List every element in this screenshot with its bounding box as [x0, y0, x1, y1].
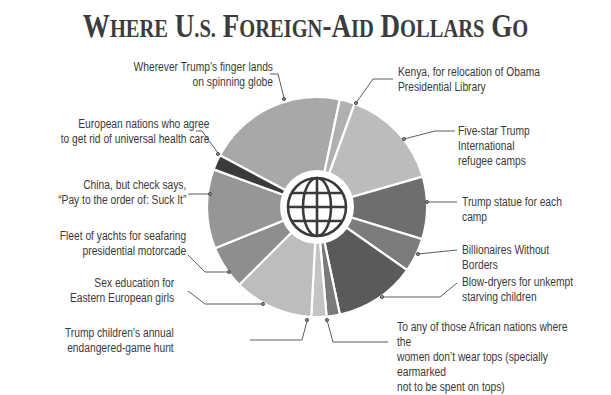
- label-trump-children: Trump children’s annual endangered-game …: [65, 326, 174, 356]
- label-sex-education: Sex education for Eastern European girls: [70, 276, 174, 306]
- label-kenya: Kenya, for relocation of Obama President…: [398, 65, 540, 95]
- label-billionaires: Billionaires Without Borders: [462, 243, 584, 273]
- label-wherever: Wherever Trump’s finger lands on spinnin…: [134, 60, 273, 90]
- globe-icon: [288, 178, 346, 236]
- label-african-nations: To any of those African nations where th…: [397, 320, 572, 395]
- label-yachts: Fleet of yachts for seafaring presidenti…: [60, 229, 186, 259]
- label-five-star: Five-star Trump International refugee ca…: [458, 124, 583, 169]
- label-china: China, but check says, “Pay to the order…: [58, 178, 186, 208]
- label-european: European nations who agree to get rid of…: [60, 117, 209, 147]
- label-statue: Trump statue for each camp: [462, 195, 584, 225]
- label-blow-dryers: Blow-dryers for unkempt starving childre…: [462, 275, 573, 305]
